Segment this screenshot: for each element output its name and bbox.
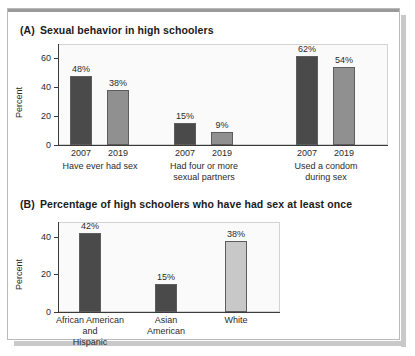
panel-a-title: (A)Sexual behavior in high schoolers bbox=[20, 24, 214, 36]
panel-a-bar-2007-four-or-more bbox=[174, 123, 196, 145]
panel-b-bar-african-american-and-hispanic bbox=[79, 233, 101, 312]
panel-a-y-axis bbox=[58, 44, 59, 145]
panel-a-bar-2019-ever-had-sex bbox=[107, 90, 129, 145]
panel-a-group-label-1: Have ever had sex bbox=[50, 161, 150, 172]
panel-b-category-label-3: White bbox=[196, 315, 276, 326]
panel-a-ytick-0 bbox=[54, 145, 58, 146]
panel-b-bar-white bbox=[225, 241, 247, 312]
panel-b-category-label-2-line2: American bbox=[126, 326, 206, 337]
panel-b-category-label-1-line3: Hispanic bbox=[40, 337, 140, 348]
panel-a-group-label-2: Had four or more sexual partners bbox=[154, 161, 254, 183]
panel-a-tag: (A) bbox=[20, 24, 35, 36]
panel-a-xtick-2007-group3: 2007 bbox=[286, 148, 328, 158]
panel-b-category-label-2-line1: Asian bbox=[126, 315, 206, 326]
panel-a-bar-2007-ever-had-sex bbox=[70, 76, 92, 145]
panel-b-bar-value-15: 15% bbox=[145, 272, 187, 282]
panel-a-bar-value-38: 38% bbox=[97, 78, 139, 88]
panel-a-bar-value-48: 48% bbox=[60, 64, 102, 74]
panel-b-ytick-label-40: 40 bbox=[18, 232, 51, 242]
panel-a-title-text: Sexual behavior in high schoolers bbox=[40, 24, 214, 36]
panel-a-group-label-3-line2: during sex bbox=[276, 172, 376, 183]
panel-a-x-axis bbox=[58, 145, 388, 146]
panel-b-category-label-1-line1: African American bbox=[40, 315, 140, 326]
panel-a-ytick-20 bbox=[54, 116, 58, 117]
panel-b-tag: (B) bbox=[20, 198, 35, 210]
panel-b-y-axis bbox=[58, 222, 59, 312]
panel-b-category-label-1-line2: and bbox=[40, 326, 140, 337]
panel-b-bar-value-42: 42% bbox=[69, 221, 111, 231]
panel-b-ytick-0 bbox=[54, 312, 58, 313]
panel-b-bar-asian-american bbox=[155, 284, 177, 312]
panel-a-xtick-2019-group2: 2019 bbox=[201, 148, 243, 158]
panel-a-bar-value-54: 54% bbox=[323, 55, 365, 65]
panel-a-bar-value-62: 62% bbox=[286, 44, 328, 54]
panel-a-group-label-2-line2: sexual partners bbox=[154, 172, 254, 183]
panel-a-xtick-2019-group3: 2019 bbox=[323, 148, 365, 158]
panel-a-ytick-label-0: 0 bbox=[18, 140, 51, 150]
panel-a-ytick-label-60: 60 bbox=[18, 53, 51, 63]
panel-a-bar-value-9: 9% bbox=[201, 120, 243, 130]
panel-a-group-label-2-line1: Had four or more bbox=[154, 161, 254, 172]
panel-b-y-axis-title: Percent bbox=[14, 259, 24, 290]
panel-b-category-label-1: African American and Hispanic bbox=[40, 315, 140, 348]
panel-b-category-label-3-line1: White bbox=[196, 315, 276, 326]
panel-a-bar-value-15: 15% bbox=[164, 111, 206, 121]
panel-a-group-label-3-line1: Used a condom bbox=[276, 161, 376, 172]
panel-a-bar-2007-used-condom bbox=[296, 56, 318, 145]
panel-a-bar-2019-used-condom bbox=[333, 67, 355, 145]
panel-a-xtick-2007-group1: 2007 bbox=[60, 148, 102, 158]
figure-root: (A)Sexual behavior in high schoolers 60 … bbox=[0, 0, 415, 356]
panel-a-group-label-3: Used a condom during sex bbox=[276, 161, 376, 183]
panel-a-bar-2019-four-or-more bbox=[211, 132, 233, 145]
panel-b-ytick-20 bbox=[54, 274, 58, 275]
figure-shadow-right bbox=[401, 15, 406, 347]
panel-b-title-text: Percentage of high schoolers who have ha… bbox=[40, 198, 352, 210]
panel-a-ytick-40 bbox=[54, 87, 58, 88]
panel-b-bar-value-38: 38% bbox=[215, 229, 257, 239]
panel-b-ytick-40 bbox=[54, 237, 58, 238]
panel-b-x-axis bbox=[58, 312, 280, 313]
panel-b-title: (B)Percentage of high schoolers who have… bbox=[20, 198, 352, 210]
panel-a-xtick-2019-group1: 2019 bbox=[97, 148, 139, 158]
panel-a-y-axis-title: Percent bbox=[14, 87, 24, 118]
panel-b-category-label-2: Asian American bbox=[126, 315, 206, 337]
panel-a-xtick-2007-group2: 2007 bbox=[164, 148, 206, 158]
panel-a-ytick-60 bbox=[54, 58, 58, 59]
panel-a-group-label-1-line1: Have ever had sex bbox=[50, 161, 150, 172]
figure-top-accent-bar bbox=[8, 9, 399, 12]
